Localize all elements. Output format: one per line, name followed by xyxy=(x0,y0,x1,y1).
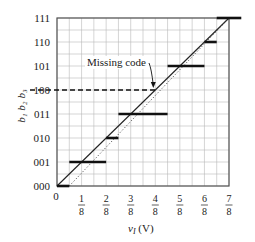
x-tick-numerator: 1 xyxy=(79,193,84,204)
y-axis-label: b₁ b₂ b₃ xyxy=(15,89,27,123)
x-tick-numerator: 2 xyxy=(104,193,109,204)
adc-transfer-characteristic-chart: Missing code 000001010011100101110111 01… xyxy=(0,0,255,242)
annotation-label: Missing code xyxy=(87,56,146,68)
x-axis-label: vI (V) xyxy=(128,222,154,236)
x-tick-denominator: 8 xyxy=(104,206,109,217)
x-tick-numerator: 3 xyxy=(128,193,133,204)
x-tick-label: 0 xyxy=(53,190,59,202)
x-tick-denominator: 8 xyxy=(177,206,182,217)
missing-code-annotation: Missing code xyxy=(85,56,156,88)
y-tick-label: 000 xyxy=(34,180,51,192)
x-tick-denominator: 8 xyxy=(153,206,158,217)
x-tick-denominator: 8 xyxy=(79,206,84,217)
y-axis-tick-labels: 000001010011100101110111 xyxy=(34,12,51,192)
y-tick-label: 011 xyxy=(34,108,50,120)
y-tick-label: 100 xyxy=(34,84,51,96)
x-tick-numerator: 5 xyxy=(177,193,182,204)
y-tick-label: 111 xyxy=(34,12,50,24)
y-tick-label: 101 xyxy=(34,60,51,72)
x-tick-denominator: 8 xyxy=(128,206,133,217)
y-tick-label: 001 xyxy=(34,156,51,168)
x-tick-numerator: 6 xyxy=(202,193,207,204)
y-axis-label-text: b₁ b₂ b₃ xyxy=(15,89,27,123)
x-axis-tick-labels: 018283848586878 xyxy=(53,190,232,217)
x-tick-numerator: 4 xyxy=(153,193,158,204)
x-tick-denominator: 8 xyxy=(202,206,207,217)
x-tick-numerator: 7 xyxy=(227,193,232,204)
y-tick-label: 010 xyxy=(34,132,51,144)
x-tick-denominator: 8 xyxy=(227,206,232,217)
x-axis-label-text: vI (V) xyxy=(128,222,154,236)
y-tick-label: 110 xyxy=(34,36,51,48)
